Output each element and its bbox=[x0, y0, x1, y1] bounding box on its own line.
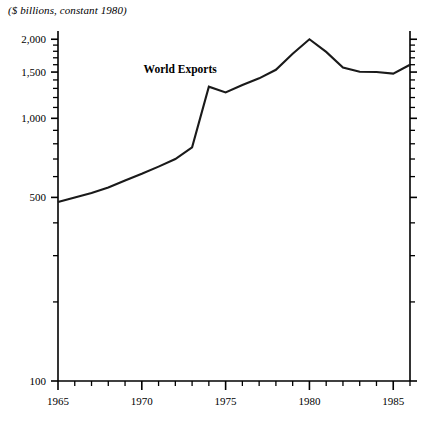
x-axis: 19651970197519801985 bbox=[47, 381, 410, 407]
y-tick-label: 2,000 bbox=[21, 33, 46, 45]
y-tick-label: 100 bbox=[30, 375, 47, 387]
x-tick-label: 1965 bbox=[47, 395, 70, 407]
x-tick-label: 1975 bbox=[215, 395, 238, 407]
x-tick-label: 1970 bbox=[131, 395, 154, 407]
y-tick-label: 1,000 bbox=[21, 112, 46, 124]
y-tick-label: 500 bbox=[30, 191, 47, 203]
series-line-group bbox=[58, 39, 410, 202]
series-line-world-exports bbox=[58, 39, 410, 202]
x-tick-label: 1985 bbox=[382, 395, 405, 407]
y-axis: 1005001,0001,5002,000 bbox=[21, 31, 58, 387]
y-axis-right bbox=[410, 31, 417, 381]
y-tick-label: 1,500 bbox=[21, 66, 46, 78]
x-tick-label: 1980 bbox=[298, 395, 321, 407]
world-exports-chart-figure: ($ billions, constant 1980) World Export… bbox=[0, 0, 432, 430]
chart-plot-area: 1005001,0001,5002,000 196519701975198019… bbox=[0, 0, 432, 430]
